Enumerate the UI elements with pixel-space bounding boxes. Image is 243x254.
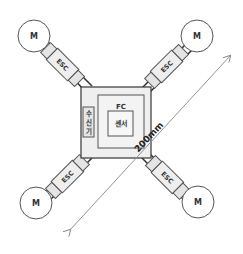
esc-bottom-right: ESC [145, 155, 190, 200]
svg-text:수: 수 [86, 110, 92, 118]
esc-top-left: ESC [40, 42, 85, 87]
svg-text:신: 신 [86, 118, 92, 127]
receiver-label: 수 신 기 [86, 110, 92, 136]
arm-top-right: ESC M [144, 20, 213, 89]
quadcopter-diagram: ESC M ESC M ESC M [0, 0, 243, 254]
arm-bottom-right: ESC M [145, 155, 214, 218]
motor-top-right: M [181, 20, 213, 52]
motor-bottom-left: M [20, 187, 52, 219]
motor-bottom-right: M [182, 186, 214, 218]
motor-label: M [30, 32, 38, 41]
fc-label: FC [116, 103, 126, 111]
arm-top-left: ESC M [18, 20, 85, 87]
motor-top-left: M [18, 20, 50, 52]
esc-top-right: ESC [144, 44, 189, 89]
motor-label: M [193, 32, 201, 41]
svg-text:기: 기 [86, 127, 92, 136]
arm-bottom-left: ESC M [20, 154, 90, 219]
sensor-label: 센서 [115, 119, 127, 128]
esc-bottom-left: ESC [45, 154, 90, 199]
motor-label: M [32, 199, 40, 208]
motor-label: M [194, 198, 202, 207]
